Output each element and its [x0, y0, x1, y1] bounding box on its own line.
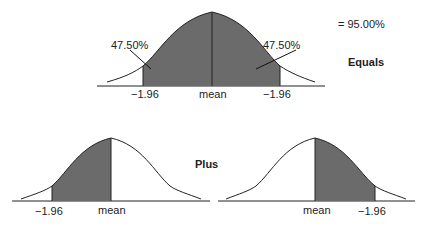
bottom-left-tick-left: −1.96: [35, 205, 63, 217]
equals-label: Equals: [348, 56, 384, 68]
bottom-right-shaded-area: [315, 138, 375, 201]
top-tick-right: −1.96: [263, 88, 291, 100]
top-tick-left: −1.96: [131, 88, 159, 100]
bottom-left-shaded-area: [52, 138, 111, 201]
total-percent: = 95.00%: [338, 18, 385, 30]
normal-distribution-diagram: [0, 0, 425, 225]
bottom-left-tick-mean: mean: [98, 204, 126, 216]
top-tick-mean: mean: [199, 88, 227, 100]
left-pointer-arrow: [130, 50, 151, 69]
bottom-right-tick-mean: mean: [303, 204, 331, 216]
bottom-right-tick-right: −1.96: [358, 205, 386, 217]
plus-label: Plus: [195, 158, 218, 170]
top-right-percent: 47.50%: [263, 39, 300, 51]
top-left-percent: 47.50%: [111, 39, 148, 51]
